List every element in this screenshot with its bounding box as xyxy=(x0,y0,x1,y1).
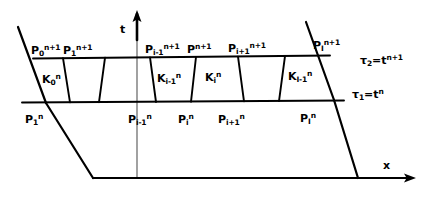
right-boundary-upper xyxy=(306,22,334,100)
x-axis-label: x xyxy=(383,160,390,171)
upper-point-label-I: PIn+1 xyxy=(313,36,340,53)
cell-divider-1 xyxy=(63,58,70,102)
cell-divider-6 xyxy=(279,56,285,101)
lower-point-label-I: PIn xyxy=(300,109,316,126)
cell-label-i-minus-1: Ki-1n xyxy=(157,69,181,86)
upper-point-label-0: P0n+1 xyxy=(31,41,60,58)
lower-point-label-i-minus-1: Pi-1n xyxy=(128,110,152,127)
figure-lines xyxy=(0,0,426,209)
upper-point-label-i: Pn+1 xyxy=(187,40,211,57)
upper-point-label-i-plus-1: Pi+1n+1 xyxy=(228,39,266,56)
cell-divider-4 xyxy=(191,57,196,102)
left-boundary-lower xyxy=(46,103,93,178)
left-boundary-upper xyxy=(18,27,46,103)
cell-label-0: K0n xyxy=(42,70,61,87)
lower-point-label-1: P1n xyxy=(25,110,43,127)
tau2-label: τ2=tn+1 xyxy=(360,54,403,68)
upper-point-label-1: P1n+1 xyxy=(63,41,92,58)
cell-label-I-minus-1: KI-1n xyxy=(288,67,312,84)
t-axis-label: t xyxy=(120,24,125,35)
cell-divider-2 xyxy=(99,58,105,102)
cell-label-i: Kin xyxy=(205,68,221,85)
lower-point-label-i: Pin xyxy=(178,110,194,127)
upper-point-label-i-minus-1: Pi-1n+1 xyxy=(145,40,180,57)
cell-divider-5 xyxy=(238,57,244,102)
tau1-label: τ1=tn xyxy=(352,88,384,102)
lower-point-label-i-plus-1: Pi+1n xyxy=(218,110,245,127)
cell-divider-3 xyxy=(150,57,156,102)
right-boundary-lower xyxy=(334,100,358,178)
spacetime-grid-figure: t x τ2=tn+1 τ1=tn P0n+1 P1n+1 Pi-1n+1 Pn… xyxy=(0,0,426,209)
